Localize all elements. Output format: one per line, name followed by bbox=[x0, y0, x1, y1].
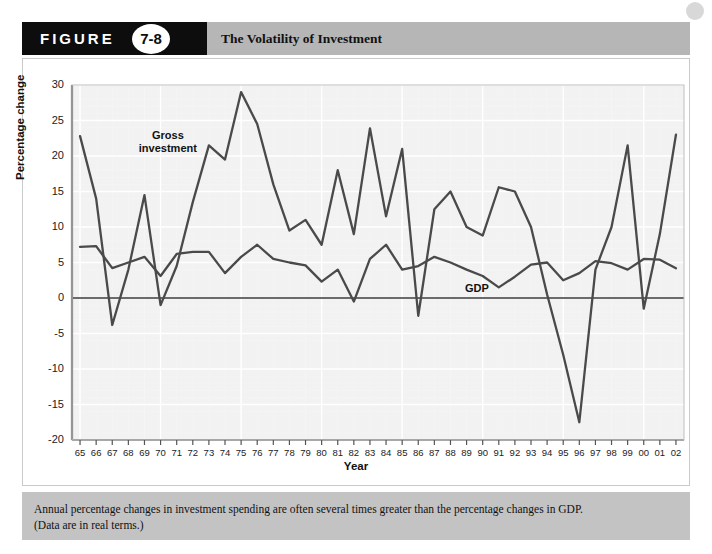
figure-title-band: The Volatility of Investment bbox=[207, 22, 690, 55]
page-corner-dot bbox=[686, 2, 704, 20]
figure-page: FIGURE 7-8 The Volatility of Investment … bbox=[0, 0, 712, 554]
figure-caption: Annual percentage changes in investment … bbox=[22, 492, 690, 540]
chart-frame bbox=[22, 58, 690, 486]
caption-line-2: (Data are in real terms.) bbox=[34, 517, 678, 533]
figure-badge: FIGURE 7-8 bbox=[22, 22, 207, 55]
figure-number: 7-8 bbox=[140, 30, 162, 47]
figure-header: FIGURE 7-8 The Volatility of Investment bbox=[22, 22, 690, 55]
figure-title: The Volatility of Investment bbox=[221, 31, 382, 47]
figure-label: FIGURE bbox=[40, 30, 115, 47]
caption-line-1: Annual percentage changes in investment … bbox=[34, 501, 678, 517]
figure-number-circle: 7-8 bbox=[132, 24, 170, 54]
